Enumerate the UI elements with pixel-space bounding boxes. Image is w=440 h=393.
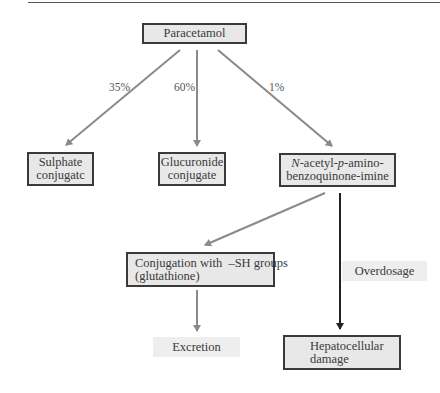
arrow-napqi-to-conjugation [205,193,325,245]
edge-label-sulphate: 35% [109,81,130,93]
node-hepatocellular-line1: Hepatocellular [310,340,384,353]
overdosage-text: Overdosage [355,264,415,279]
edge-label-overdosage: Overdosage [342,261,427,281]
node-paracetamol-label: Paracetamol [164,27,226,40]
node-sulphate-conjugate: Sulphate conjugatc [27,152,94,186]
node-napqi: N-acetyl-p-amino- benzoquinone-imine [279,153,396,187]
napqi-n-italic: N [291,156,299,170]
node-glucuronide-line2: conjugate [161,169,223,182]
diagram-canvas: Paracetamol 35% 60% 1% Sulphate conjugat… [0,0,440,393]
node-conjugation-line1: Conjugation with –SH groups [135,257,288,270]
node-hepatocellular-damage: Hepatocellular damage [283,335,401,370]
excretion-text: Excretion [172,340,221,355]
napqi-amino: -amino- [344,156,384,170]
node-glucuronide-conjugate: Glucuronide conjugate [158,152,226,186]
node-hepatocellular-line2: damage [310,353,384,366]
node-paracetamol: Paracetamol [142,23,247,44]
node-sulphate-line2: conjugatc [36,169,85,182]
napqi-acetyl: -acetyl- [300,156,338,170]
node-excretion: Excretion [153,337,240,357]
edge-label-napqi: 1% [269,81,284,93]
node-conjugation-line2: (glutathione) [135,270,288,283]
arrow-paracetamol-to-napqi [218,50,332,146]
node-conjugation-glutathione: Conjugation with –SH groups (glutathione… [126,252,275,287]
node-napqi-line2: benzoquinone-imine [286,170,389,183]
arrow-paracetamol-to-sulphate [66,50,180,145]
edge-label-glucuronide: 60% [174,81,195,93]
